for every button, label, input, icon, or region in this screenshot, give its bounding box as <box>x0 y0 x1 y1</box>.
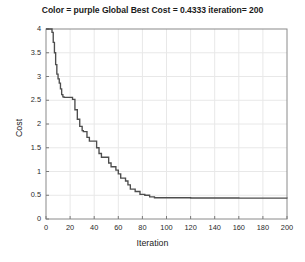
x-tick-label: 100 <box>154 223 180 232</box>
x-tick-label: 80 <box>129 223 155 232</box>
x-tick-label: 180 <box>250 223 276 232</box>
x-tick-label: 160 <box>226 223 252 232</box>
y-tick-label: 1 <box>19 167 41 176</box>
x-tick-label: 60 <box>105 223 131 232</box>
x-axis-label: Iteration <box>0 238 305 248</box>
y-tick-label: 4 <box>19 24 41 33</box>
y-tick-label: 1.5 <box>19 143 41 152</box>
x-tick-label: 20 <box>57 223 83 232</box>
x-tick-label: 0 <box>33 223 59 232</box>
x-tick-label: 200 <box>274 223 300 232</box>
x-tick-label: 120 <box>178 223 204 232</box>
y-tick-label: 3 <box>19 72 41 81</box>
figure-canvas: Color = purple Global Best Cost = 0.4333… <box>0 0 305 262</box>
y-axis-label: Cost <box>14 119 24 137</box>
y-tick-label: 3.5 <box>19 48 41 57</box>
x-tick-label: 40 <box>81 223 107 232</box>
x-tick-label: 140 <box>202 223 228 232</box>
y-tick-label: 0.5 <box>19 190 41 199</box>
y-tick-label: 0 <box>19 214 41 223</box>
y-tick-label: 2.5 <box>19 95 41 104</box>
